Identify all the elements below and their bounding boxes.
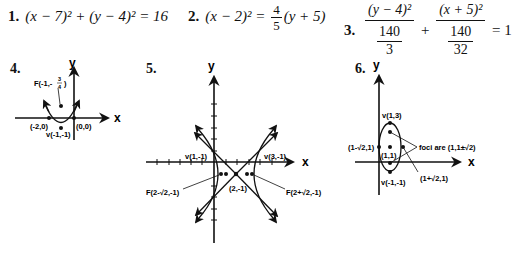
left-point [377,145,381,149]
focus-leader [58,88,60,104]
y-axis-label: y [373,58,380,72]
right-intercept-label: (0,0) [76,122,92,131]
top-vertex-point [388,121,392,125]
left-focus-label: F(2-√2,-1) [146,188,180,197]
right-vertex-point [245,172,249,176]
left-vertex-label: v(1,-1) [185,152,208,161]
right-point-label: (1+√2,1) [420,174,449,183]
right-focus-point [250,172,254,176]
center-point [234,172,238,176]
left-focus-point [219,172,223,176]
center-point [388,145,392,149]
foci-note: foci are (1,1±√2) [419,143,476,152]
asymptote-5 [236,174,277,216]
center-label: (2,-1) [229,184,247,193]
graph-4-parabola: x y F(-1,- 3 4 ) (-2,0) (0,0) v(-1,-1) [15,56,121,140]
x-axis-label: x [302,155,309,169]
focus-frac-den: 4 [58,84,62,90]
x-axis-label: x [468,155,475,169]
vertex-label: v(-1,-1) [46,130,71,139]
left-intercept-point [47,116,51,120]
focus-frac-num: 3 [58,76,61,82]
y-axis-label: y [208,59,215,73]
top-vertex-label: v(1,3) [382,111,402,120]
left-branch [199,130,218,218]
y-axis-label: y [69,56,76,70]
graph-6-ellipse: x y v(1,3) (1,1) (1-√2,1) foci are (1,1±… [348,58,476,195]
center-label: (1,1) [381,151,397,160]
right-vertex-label: v(3,-1) [264,152,287,161]
graph-5-hyperbola: x y [146,59,322,243]
focus-point [59,104,63,108]
graphs-canvas: x y F(-1,- 3 4 ) (-2,0) (0,0) v(-1,-1) x… [0,0,526,254]
x-axis-label: x [114,111,121,125]
bottom-vertex-point [388,170,392,174]
right-branch [254,130,273,218]
focus-label: F(-1,- [34,79,53,88]
left-arrow [44,101,49,112]
left-vertex-point [224,172,228,176]
focus-close: ) [64,79,67,88]
left-point-label: (1-√2,1) [348,143,375,152]
bottom-vertex-label: v(-1,-1) [381,178,406,187]
right-focus-label: F(2+√2,-1) [286,188,322,197]
origin-point [72,116,76,120]
